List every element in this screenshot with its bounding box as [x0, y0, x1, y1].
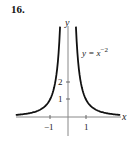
y-axis-label: y — [64, 17, 70, 28]
function-graph: y x −1 1 1 2 y = x−2 — [0, 0, 138, 148]
function-label: y = x−2 — [81, 46, 109, 58]
function-label-exponent: −2 — [101, 46, 109, 54]
curve-left-branch — [16, 27, 60, 115]
x-tick-label-1: 1 — [84, 122, 89, 132]
curve-right-branch — [76, 27, 120, 115]
x-tick-label-neg1: −1 — [44, 122, 54, 132]
x-axis-label: x — [121, 111, 127, 122]
y-tick-label-2: 2 — [58, 77, 63, 87]
function-label-base: y = x — [81, 48, 101, 58]
y-tick-label-1: 1 — [58, 94, 63, 104]
